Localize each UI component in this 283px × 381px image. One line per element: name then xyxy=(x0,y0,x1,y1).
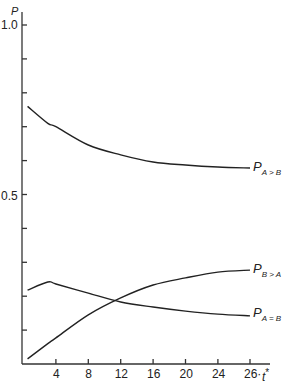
x-tick-label: 16 xyxy=(147,368,160,380)
curve-label: PB > A xyxy=(253,262,281,279)
x-axis-label: t* xyxy=(262,368,269,381)
x-tick-label: 20 xyxy=(180,368,193,380)
y-axis-label: P xyxy=(11,6,18,17)
y-tick-label-1-0: 1.0 xyxy=(1,19,18,31)
curve-2 xyxy=(28,282,250,316)
curves xyxy=(28,106,250,359)
x-tick-label: 24 xyxy=(212,368,225,380)
curve-label: PA = B xyxy=(253,306,281,323)
x-tick-label: 26· xyxy=(244,368,261,380)
y-tick-label-0-5: 0.5 xyxy=(1,190,18,202)
curve-0 xyxy=(28,106,250,168)
x-tick-label: 12 xyxy=(115,368,128,380)
axes xyxy=(22,12,270,364)
x-tick-label: 4 xyxy=(53,368,60,380)
line-chart xyxy=(0,0,283,381)
x-tick-label: 8 xyxy=(85,368,92,380)
curve-label: PA > B xyxy=(253,160,281,177)
